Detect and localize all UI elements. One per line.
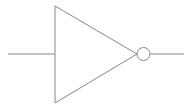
buffer-triangle — [55, 6, 137, 103]
inversion-bubble — [137, 48, 150, 61]
not-gate-diagram — [0, 0, 194, 108]
